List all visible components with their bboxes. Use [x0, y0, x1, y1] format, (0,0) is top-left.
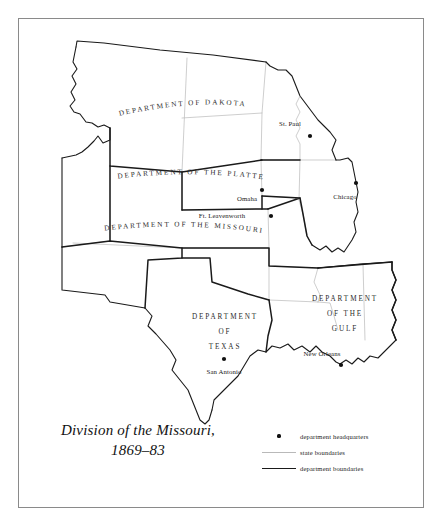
- texas-label-line-1: DEPARTMENT: [192, 313, 258, 321]
- legend-item-state-boundaries: state boundaries: [258, 444, 408, 460]
- hq-dot-new-orleans: [339, 363, 343, 367]
- map-title-line-1: Division of the Missouri,: [38, 420, 238, 440]
- map-title: Division of the Missouri, 1869–83: [38, 420, 238, 460]
- gulf-label-line-3: GULF: [332, 325, 358, 333]
- department-label-missouri: DEPARTMENT OF THE MISSOURI: [104, 221, 264, 235]
- map-legend: department headquarters state boundaries…: [258, 428, 408, 476]
- headquarters-st-paul: St. Paul: [279, 120, 312, 138]
- legend-label-headquarters: department headquarters: [300, 433, 368, 440]
- hq-dot-chicago: [354, 181, 358, 185]
- national-outline: [62, 41, 396, 424]
- city-label-omaha: Omaha: [237, 195, 257, 202]
- map-figure: DEPARTMENT OF DAKOTA DEPARTMENT OF THE P…: [0, 0, 442, 531]
- platte-label-text: DEPARTMENT OF THE PLATTE: [117, 168, 265, 181]
- city-label-san-antonio: San Antonio: [207, 368, 242, 375]
- city-label-new-orleans: New Orleans: [304, 350, 341, 357]
- department-label-platte: DEPARTMENT OF THE PLATTE: [117, 168, 265, 181]
- hq-dot-san-antonio: [222, 357, 226, 361]
- svg-text:DEPARTMENT OF THE PLATTE: DEPARTMENT OF THE PLATTE: [117, 168, 265, 181]
- headquarters-ft-leavenworth: Ft. Leavenworth: [199, 212, 273, 219]
- hq-dot-ft-leavenworth: [269, 214, 273, 218]
- legend-key-dot-icon: [258, 428, 300, 444]
- hq-dot-st-paul: [308, 134, 312, 138]
- headquarters-new-orleans: New Orleans: [304, 350, 343, 367]
- city-label-chicago: Chicago: [333, 193, 357, 200]
- legend-item-headquarters: department headquarters: [258, 428, 408, 444]
- headquarters-san-antonio: San Antonio: [207, 357, 242, 375]
- city-label-ft-leavenworth: Ft. Leavenworth: [199, 212, 246, 219]
- gulf-label-line-2: OF THE: [327, 310, 363, 318]
- svg-text:DEPARTMENT OF THE MISSOURI: DEPARTMENT OF THE MISSOURI: [104, 221, 264, 235]
- department-label-gulf: DEPARTMENT OF THE GULF: [312, 295, 378, 333]
- gulf-label-line-1: DEPARTMENT: [312, 295, 378, 303]
- headquarters-omaha: Omaha: [237, 188, 264, 202]
- hq-dot-omaha: [260, 188, 264, 192]
- legend-label-department-boundaries: department boundaries: [300, 465, 363, 472]
- texas-label-line-3: TEXAS: [209, 343, 242, 351]
- texas-label-line-2: OF: [219, 328, 232, 336]
- headquarters-chicago: Chicago: [333, 181, 358, 200]
- legend-label-state-boundaries: state boundaries: [300, 449, 345, 456]
- map-title-line-2: 1869–83: [38, 440, 238, 460]
- city-label-st-paul: St. Paul: [279, 120, 301, 127]
- department-label-texas: DEPARTMENT OF TEXAS: [192, 313, 258, 351]
- legend-key-thin-line-icon: [258, 444, 300, 460]
- legend-key-thick-line-icon: [258, 460, 300, 476]
- legend-item-department-boundaries: department boundaries: [258, 460, 408, 476]
- missouri-label-text: DEPARTMENT OF THE MISSOURI: [104, 221, 264, 235]
